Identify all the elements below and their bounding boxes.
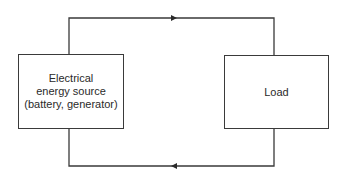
- arrow-left-icon: [171, 163, 177, 169]
- load-label: Load: [264, 86, 288, 99]
- bottom-wire: [69, 129, 274, 166]
- circuit-diagram: Electrical energy source (battery, gener…: [0, 0, 344, 181]
- energy-source-box: Electrical energy source (battery, gener…: [18, 54, 124, 129]
- arrow-right-icon: [171, 15, 177, 21]
- load-label-line: Load: [264, 86, 288, 99]
- energy-source-label: Electrical energy source (battery, gener…: [24, 72, 117, 111]
- load-box: Load: [224, 55, 329, 129]
- top-wire: [69, 18, 274, 55]
- energy-source-label-line: energy source: [24, 85, 117, 98]
- energy-source-label-line: (battery, generator): [24, 98, 117, 111]
- energy-source-label-line: Electrical: [24, 72, 117, 85]
